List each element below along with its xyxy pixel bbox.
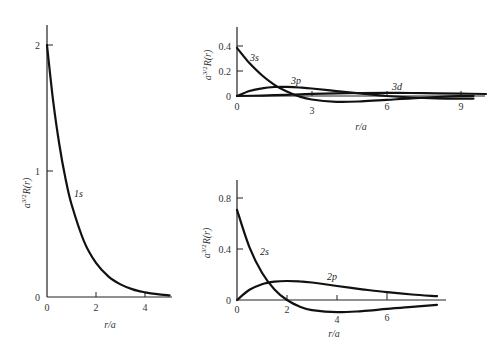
- y-tick-label: 0.8: [219, 193, 232, 204]
- y-axis-title: a3/2R(r): [20, 177, 33, 208]
- x-tick-label: 6: [385, 101, 390, 112]
- curve-label-2p: 2p: [327, 271, 337, 282]
- x-tick-label: 2: [94, 302, 99, 313]
- panel-1s: 2 1 0 0 2 4 r/a a3/2R(r) 1s: [20, 25, 172, 330]
- x-tick-label: 3: [310, 105, 315, 116]
- y-tick-label: 2: [35, 40, 40, 51]
- y-tick-label: 0: [35, 292, 40, 303]
- curve-label-2s: 2s: [260, 246, 269, 257]
- y-tick-label: 1: [35, 166, 40, 177]
- y-tick-label: 0.4: [219, 41, 232, 52]
- y-tick-label: 0: [226, 91, 231, 102]
- y-tick-label: 0.4: [219, 244, 232, 255]
- panel-n2: 0.8 0.4 0 0 2 4 6 r/a a3/2R(r) 2s 2p: [200, 180, 446, 339]
- y-axis-title: a3/2R(r): [200, 227, 213, 258]
- x-tick-label: 9: [459, 101, 464, 112]
- x-tick-label: 0: [45, 302, 50, 313]
- panel-n3: 0.4 0.2 0 0 3 6 9 r/a a3/2R(r) 3s 3p 3d: [201, 27, 486, 132]
- x-tick-label: 2: [285, 304, 290, 315]
- x-axis-title: r/a: [355, 121, 367, 132]
- y-tick-label: 0: [226, 295, 231, 306]
- x-tick-label: 0: [235, 304, 240, 315]
- x-axis-title: r/a: [104, 319, 116, 330]
- curve-label-3p: 3p: [290, 75, 301, 86]
- curve-label-3d: 3d: [391, 81, 403, 92]
- x-tick-label: 0: [235, 101, 240, 112]
- x-tick-label: 4: [143, 302, 148, 313]
- x-axis-title: r/a: [328, 328, 340, 339]
- x-tick-label: 6: [385, 312, 390, 323]
- curve-label-1s: 1s: [74, 188, 83, 199]
- curve-1s: [47, 45, 170, 295]
- y-tick-label: 0.2: [219, 66, 232, 77]
- x-tick-label: 4: [335, 314, 340, 325]
- figure: 2 1 0 0 2 4 r/a a3/2R(r) 1s 0.4 0.2 0 0 …: [0, 0, 499, 358]
- curve-label-3s: 3s: [249, 52, 259, 63]
- y-axis-title: a3/2R(r): [201, 49, 214, 80]
